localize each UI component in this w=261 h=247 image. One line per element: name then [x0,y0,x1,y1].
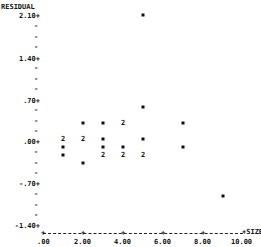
y-tick-1.40: 1.40+ [19,56,40,63]
y-minor-tick: - [34,23,38,30]
y-minor-tick: - [34,202,38,209]
data-point [122,145,125,148]
data-point [142,138,145,141]
data-point [62,145,65,148]
y-minor-tick: - [34,170,38,177]
y-tick-0.00: .00+ [23,139,40,146]
data-point [62,153,65,156]
data-point [142,13,145,16]
x-tick-mark: + [201,230,205,237]
y-minor-tick: - [34,76,38,83]
x-tick-mark: + [41,230,45,237]
data-point-multiple: 2 [141,151,145,158]
x-tick-4: 4.00 [114,239,131,246]
y-tick-2.10: 2.10+ [19,13,40,20]
data-point [82,122,85,125]
y-minor-tick: - [34,44,38,51]
data-point [142,105,145,108]
data-point [102,122,105,125]
y-minor-tick: - [34,160,38,167]
x-axis-line [43,233,243,234]
x-tick-mark: + [81,230,85,237]
y-axis-label: RESIDUAL [1,4,35,11]
data-point-multiple: 2 [121,151,125,158]
y-minor-tick: - [34,65,38,72]
y-minor-tick: - [34,149,38,156]
x-tick-8: 8.00 [194,239,211,246]
y-minor-tick: - [34,86,38,93]
x-tick-0: .00 [37,239,50,246]
y-minor-tick: - [34,107,38,114]
data-point [102,138,105,141]
y-minor-tick: - [34,118,38,125]
x-tick-mark: + [161,230,165,237]
x-tick-mark: + [121,230,125,237]
data-point-multiple: 2 [101,151,105,158]
y-tick-neg0.70: -.70+ [19,181,40,188]
data-point-multiple: 2 [61,136,65,143]
data-point [182,122,185,125]
y-tick-0.70: .70+ [23,98,40,105]
y-minor-tick: - [34,212,38,219]
y-tick-neg1.40: -1.40+ [15,223,40,230]
data-point [82,162,85,165]
x-axis-label: +SIZE [242,229,261,236]
data-point [182,145,185,148]
y-minor-tick: - [34,34,38,41]
y-minor-tick: - [34,191,38,198]
x-tick-2: 2.00 [74,239,91,246]
data-point [102,145,105,148]
data-point-multiple: 2 [81,136,85,143]
x-tick-10: 10.00 [231,239,252,246]
data-point-multiple: 2 [121,120,125,127]
x-tick-6: 6.00 [154,239,171,246]
y-minor-tick: - [34,128,38,135]
data-point [222,195,225,198]
